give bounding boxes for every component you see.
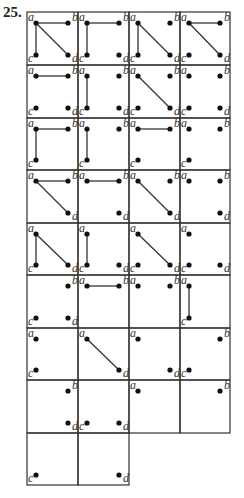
edge-ad (138, 76, 170, 108)
vertex-label-a: a (28, 326, 34, 340)
vertex-c (186, 315, 191, 320)
vertex-a (33, 73, 38, 78)
graph-cell: ac (180, 273, 230, 328)
graph-cell: abcd (78, 10, 130, 65)
vertex-b (65, 73, 70, 78)
graph-cell: cd (78, 380, 130, 433)
graph-cell: abcd (180, 10, 231, 65)
vertex-b (65, 126, 70, 131)
vertex-b (217, 178, 222, 183)
vertex-d (167, 52, 172, 57)
vertex-c (33, 105, 38, 110)
vertex-label-a: a (130, 168, 136, 182)
vertex-label-b: b (72, 10, 78, 24)
graph-cell: abc (180, 116, 230, 170)
vertex-d (217, 105, 222, 110)
vertex-a (186, 126, 191, 131)
vertex-label-c: c (28, 261, 34, 275)
vertex-b (116, 20, 121, 25)
vertex-c (135, 157, 140, 162)
graph-cell: acd (180, 221, 231, 275)
vertex-label-b: b (72, 273, 78, 287)
vertex-c (186, 52, 191, 57)
vertex-a (84, 20, 89, 25)
vertex-a (84, 126, 89, 131)
vertex-d (217, 210, 222, 215)
vertex-a (84, 73, 89, 78)
vertex-label-a: a (181, 10, 187, 24)
graph-cell: abd (78, 168, 130, 223)
vertex-label-b: b (224, 116, 230, 130)
vertex-b (217, 388, 222, 393)
vertex-c (135, 262, 140, 267)
vertex-b (167, 73, 172, 78)
graph-cell: ad (78, 326, 130, 380)
vertex-label-a: a (79, 10, 85, 24)
vertex-d (217, 262, 222, 267)
vertex-label-b: b (174, 168, 180, 182)
vertex-b (65, 388, 70, 393)
vertex-a (135, 73, 140, 78)
vertex-d (116, 367, 121, 372)
vertex-c (186, 262, 191, 267)
vertex-label-a: a (79, 168, 85, 182)
graph-cell: abd (27, 168, 79, 223)
vertex-b (116, 126, 121, 131)
vertex-d (65, 420, 70, 425)
vertex-label-b: b (174, 63, 180, 77)
vertex-d (116, 52, 121, 57)
vertex-label-d: d (224, 209, 231, 223)
graph-cell: abd (129, 168, 181, 223)
vertex-a (135, 283, 140, 288)
vertex-label-c: c (181, 314, 187, 328)
vertex-label-a: a (28, 63, 34, 77)
vertex-a (33, 336, 38, 341)
vertex-a (135, 231, 140, 236)
vertex-b (217, 20, 222, 25)
vertex-d (65, 52, 70, 57)
vertex-d (167, 210, 172, 215)
vertex-label-a: a (130, 273, 136, 287)
vertex-label-d: d (224, 261, 231, 275)
vertex-label-b: b (123, 273, 129, 287)
vertex-c (186, 367, 191, 372)
vertex-label-a: a (181, 63, 187, 77)
edge-ad (36, 23, 68, 55)
vertex-b (217, 73, 222, 78)
vertex-b (65, 178, 70, 183)
vertex-label-b: b (123, 63, 129, 77)
graph-cell: ac (27, 326, 78, 380)
vertex-c (33, 472, 38, 477)
subgraph-grid-diagram: abcdabcdabcdabcdabcdabcdabcdabcdabcabcab… (0, 0, 244, 498)
vertex-a (186, 283, 191, 288)
graph-cell: abcd (27, 10, 79, 65)
vertex-b (116, 283, 121, 288)
vertex-label-a: a (130, 10, 136, 24)
vertex-label-b: b (72, 168, 78, 182)
graph-cell: abcd (129, 63, 181, 118)
graph-cell: d (78, 433, 130, 485)
vertex-label-c: c (79, 419, 85, 433)
graph-cell: abcd (27, 63, 79, 118)
vertex-b (217, 126, 222, 131)
vertex-label-a: a (79, 221, 85, 235)
vertex-d (116, 262, 121, 267)
graph-cell: abc (78, 116, 129, 170)
graph-cell: acd (129, 221, 181, 275)
graph-cell: bc (180, 326, 230, 380)
edge-ad (87, 339, 119, 370)
vertex-c (84, 262, 89, 267)
vertex-b (167, 283, 172, 288)
edge-ad (189, 23, 220, 55)
vertex-c (84, 420, 89, 425)
vertex-a (135, 336, 140, 341)
vertex-label-a: a (130, 221, 136, 235)
vertex-c (84, 52, 89, 57)
vertex-label-b: b (224, 168, 230, 182)
vertex-label-b: b (174, 116, 180, 130)
vertex-label-a: a (181, 116, 187, 130)
vertex-a (135, 388, 140, 393)
graph-cell: abc (27, 116, 78, 170)
vertex-label-b: b (72, 116, 78, 130)
edge-ad (138, 234, 170, 265)
